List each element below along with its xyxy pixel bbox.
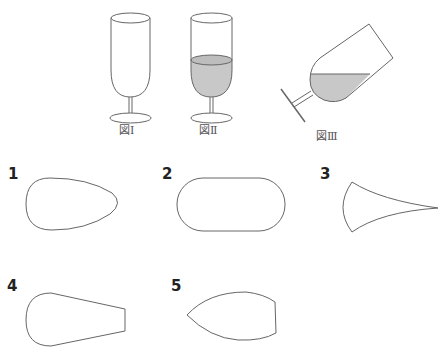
glass-figure-1 [110,13,151,123]
glass-figure-2 [191,13,232,123]
option-shape-1 [26,178,118,230]
option-number-4: 4 [7,277,17,295]
option-shape-3 [343,182,438,232]
figure-label-1: 図Ⅰ [119,121,134,137]
option-number-1: 1 [8,165,18,183]
diagram-canvas [0,0,448,353]
figure-label-2: 図Ⅱ [199,121,217,137]
option-shape-4 [26,293,125,346]
option-number-2: 2 [162,165,172,183]
option-shape-5 [187,292,276,340]
option-number-3: 3 [320,165,330,183]
glass-figure-3 [281,24,393,122]
figure-label-3: 図Ⅲ [316,127,338,143]
option-shape-2 [177,178,285,231]
option-number-5: 5 [171,277,181,295]
